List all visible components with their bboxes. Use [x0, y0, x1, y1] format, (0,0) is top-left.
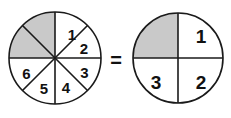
equals-sign: = [110, 49, 122, 71]
right-slice-label-1: 1 [196, 26, 207, 47]
fraction-diagram: 1 2 3 4 5 6 = 1 2 3 [0, 0, 231, 118]
left-slice-label-1: 1 [68, 26, 76, 43]
left-slice-label-3: 3 [80, 64, 88, 81]
left-slice-label-6: 6 [22, 65, 30, 82]
left-circle-group: 1 2 3 4 5 6 [9, 12, 101, 104]
right-circle-group: 1 2 3 [133, 13, 223, 103]
left-slice-label-5: 5 [40, 80, 48, 97]
left-slice-label-2: 2 [80, 40, 88, 57]
left-slice-label-4: 4 [62, 79, 71, 96]
right-slice-label-3: 3 [151, 72, 162, 93]
right-slice-label-2: 2 [196, 72, 207, 93]
figure-canvas: 1 2 3 4 5 6 = 1 2 3 [0, 0, 231, 118]
